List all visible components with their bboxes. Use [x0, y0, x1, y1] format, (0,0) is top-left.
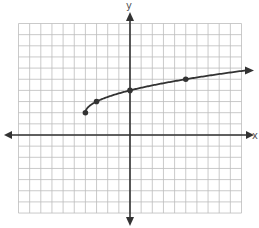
- y-axis-down-arrow-icon: [126, 217, 134, 226]
- data-point: [183, 76, 189, 82]
- axes: [4, 12, 254, 226]
- data-point: [94, 99, 100, 105]
- x-axis-label: x: [252, 130, 258, 141]
- y-axis-up-arrow-icon: [126, 12, 134, 21]
- curve: [85, 66, 254, 112]
- curve-arrow-icon: [245, 66, 254, 74]
- function-curve: [85, 70, 246, 112]
- data-point: [83, 110, 89, 116]
- data-point: [127, 88, 133, 94]
- y-axis-label: y: [126, 0, 132, 11]
- coordinate-plane: x y: [0, 0, 259, 228]
- x-axis-left-arrow-icon: [4, 131, 12, 139]
